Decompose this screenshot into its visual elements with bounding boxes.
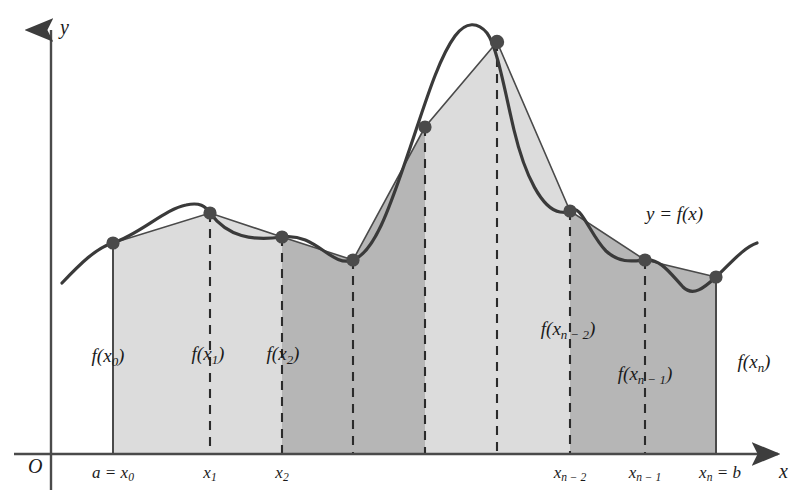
tick-label-xn2: xn − 2 [554, 463, 587, 484]
tick-xn-text: x [699, 463, 707, 482]
tick-x1-sub: 1 [211, 471, 217, 484]
fx2-text: f(x [267, 343, 287, 364]
tick-xn1-sub: n − 1 [636, 471, 661, 484]
node-dot-x3 [346, 253, 359, 266]
tick-x0-text: a = x [92, 463, 128, 482]
node-dot-xn1 [638, 253, 651, 266]
tick-xn2-sub: n − 2 [561, 471, 586, 484]
fxn-text: f(x [738, 351, 758, 372]
fxn2-sub: n − 2 [561, 327, 589, 342]
fx0-text: f(x [92, 345, 112, 366]
integration-diagram-svg [0, 0, 811, 503]
value-label-fxn: f(xn) [738, 351, 771, 376]
tick-label-xn: xn = b [699, 463, 741, 484]
node-dot-x0 [106, 236, 119, 249]
curve-equation-label: y = f(x) [646, 203, 703, 225]
tick-label-xn1: xn − 1 [629, 463, 662, 484]
node-dot-xn2 [563, 204, 576, 217]
tick-label-x1: x1 [203, 463, 216, 484]
fxn2-text: f(x [541, 318, 561, 339]
band-1 [210, 213, 282, 454]
band-4 [425, 42, 497, 454]
value-label-fxn1: f(xn − 1) [618, 363, 672, 388]
tick-x1-text: x [203, 463, 211, 482]
value-label-fx2: f(x2) [267, 343, 300, 368]
fxn1-close: ) [666, 363, 672, 384]
band-0 [113, 213, 210, 454]
fx2-close: ) [293, 343, 299, 364]
tick-label-x0: a = x0 [92, 463, 134, 484]
y-axis-label: y [60, 16, 69, 39]
value-label-fxn2: f(xn − 2) [541, 318, 595, 343]
tick-xn-suffix: = b [712, 463, 740, 482]
fxn-close: ) [764, 351, 770, 372]
tick-x2-sub: 2 [283, 471, 289, 484]
node-dot-x1 [203, 206, 216, 219]
figure-canvas: y x O y = f(x) a = x0 x1 x2 xn − 2 xn − … [0, 0, 811, 503]
tick-x2-text: x [275, 463, 283, 482]
tick-label-x2: x2 [275, 463, 288, 484]
fxn1-text: f(x [618, 363, 638, 384]
fxn2-close: ) [589, 318, 595, 339]
node-dot-x4 [418, 120, 431, 133]
fx1-close: ) [218, 343, 224, 364]
node-dot-x2 [275, 230, 288, 243]
fxn1-sub: n − 1 [638, 372, 666, 387]
origin-label: O [28, 455, 42, 478]
tick-x0-sub: 0 [128, 471, 134, 484]
band-3 [353, 127, 425, 454]
fx0-close: ) [118, 345, 124, 366]
value-label-fx0: f(x0) [92, 345, 125, 370]
tick-xn1-text: x [629, 463, 637, 482]
value-label-fx1: f(x1) [192, 343, 225, 368]
fx1-text: f(x [192, 343, 212, 364]
x-axis-label: x [779, 460, 788, 483]
node-dot-x5 [490, 35, 504, 49]
tick-xn2-text: x [554, 463, 562, 482]
node-dot-xn [709, 270, 722, 283]
band-7 [645, 260, 716, 454]
